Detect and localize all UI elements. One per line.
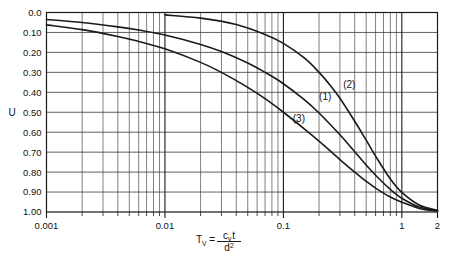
- x-tick-label: 1: [399, 220, 404, 231]
- y-tick-label: 1.00: [23, 206, 42, 217]
- x-axis-title: TV= cvt d2: [196, 230, 241, 253]
- y-tick-label: 0.30: [23, 67, 42, 78]
- y-axis-title: U: [8, 107, 15, 118]
- x-axis-title-numerator: cvt: [223, 230, 235, 242]
- chart-canvas: 0.0010.010.112 0.00.100.200.300.400.500.…: [0, 0, 456, 255]
- x-tick-label: 2: [435, 220, 440, 231]
- grid-major-horizontal: [47, 32, 438, 192]
- x-axis-tick-labels: 0.0010.010.112: [35, 220, 441, 231]
- y-tick-label: 0.10: [23, 27, 42, 38]
- y-tick-label: 0.90: [23, 186, 42, 197]
- curve-3: [47, 25, 438, 211]
- y-tick-label: 0.50: [23, 107, 42, 118]
- x-axis-tick-marks: [47, 212, 438, 218]
- y-tick-label: 0.70: [23, 147, 42, 158]
- data-curves: [47, 15, 438, 211]
- y-tick-label: 0.40: [23, 87, 42, 98]
- consolidation-chart-figure: 0.0010.010.112 0.00.100.200.300.400.500.…: [0, 0, 456, 255]
- x-axis-title-base: TV=: [196, 234, 215, 247]
- curve-annotation-2: (2): [343, 79, 355, 90]
- x-axis-title-denominator: d2: [224, 242, 234, 253]
- curve-1: [47, 19, 438, 210]
- y-tick-label: 0.0: [28, 7, 41, 18]
- y-axis-tick-labels: 0.00.100.200.300.400.500.600.700.800.901…: [23, 7, 42, 218]
- y-tick-label: 0.20: [23, 47, 42, 58]
- curve-annotation-1: (1): [319, 91, 331, 102]
- x-tick-label: 0.001: [35, 220, 59, 231]
- x-tick-label: 0.1: [277, 220, 290, 231]
- x-tick-label: 0.01: [156, 220, 175, 231]
- y-tick-label: 0.80: [23, 167, 42, 178]
- y-tick-label: 0.60: [23, 127, 42, 138]
- curve-annotation-3: (3): [293, 113, 305, 124]
